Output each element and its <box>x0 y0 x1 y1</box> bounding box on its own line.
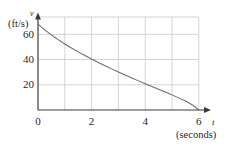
x-axis-variable-label: t <box>212 118 215 127</box>
y-tick-label-20: 20 <box>8 79 34 90</box>
y-tick-label-60: 60 <box>8 29 34 40</box>
x-tick-label-0: 0 <box>29 116 47 127</box>
y-tick-label-40: 40 <box>8 54 34 65</box>
x-axis-unit-label: (seconds) <box>176 130 216 141</box>
y-axis-variable-label: v <box>30 10 34 18</box>
velocity-time-chart: v (ft/s) 60 40 20 0 2 4 6 t (seconds) <box>0 0 228 146</box>
x-tick-label-2: 2 <box>83 116 101 127</box>
x-tick-label-6: 6 <box>190 116 208 127</box>
x-tick-label-4: 4 <box>136 116 154 127</box>
